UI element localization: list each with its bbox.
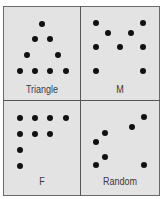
dot-marker [63, 115, 69, 121]
panel-label-m: M [116, 85, 124, 95]
panel-label-f: F [39, 177, 44, 187]
vertical-divider [80, 6, 81, 196]
dot-marker [105, 30, 111, 36]
dot-marker [93, 139, 99, 145]
dot-marker [141, 162, 147, 168]
dot-marker [17, 147, 23, 153]
dot-marker [55, 52, 61, 58]
dot-marker [102, 154, 108, 160]
dot-marker [129, 124, 135, 130]
dot-marker [140, 44, 146, 50]
dot-marker [93, 162, 99, 168]
dot-marker [47, 131, 53, 137]
dot-marker [39, 21, 45, 27]
dot-marker [141, 114, 147, 120]
panel-label-triangle: Triangle [26, 85, 58, 95]
dot-marker [117, 44, 123, 50]
dot-marker [93, 68, 99, 74]
dot-marker [32, 131, 38, 137]
dot-marker [102, 130, 108, 136]
dot-marker [47, 36, 53, 42]
dot-marker [17, 163, 23, 169]
dot-marker [32, 115, 38, 121]
dot-marker [17, 68, 23, 74]
dot-marker [140, 20, 146, 26]
diagram-frame [3, 6, 160, 196]
dot-marker [47, 115, 53, 121]
dot-marker [17, 131, 23, 137]
dot-marker [32, 36, 38, 42]
dot-marker [128, 30, 134, 36]
dot-marker [17, 115, 23, 121]
dot-marker [93, 44, 99, 50]
dot-marker [140, 68, 146, 74]
dot-marker [63, 68, 69, 74]
panel-label-random: Random [103, 177, 137, 187]
horizontal-divider [3, 100, 160, 101]
dot-marker [24, 52, 30, 58]
dot-marker [32, 68, 38, 74]
dot-marker [47, 68, 53, 74]
dot-marker [93, 20, 99, 26]
